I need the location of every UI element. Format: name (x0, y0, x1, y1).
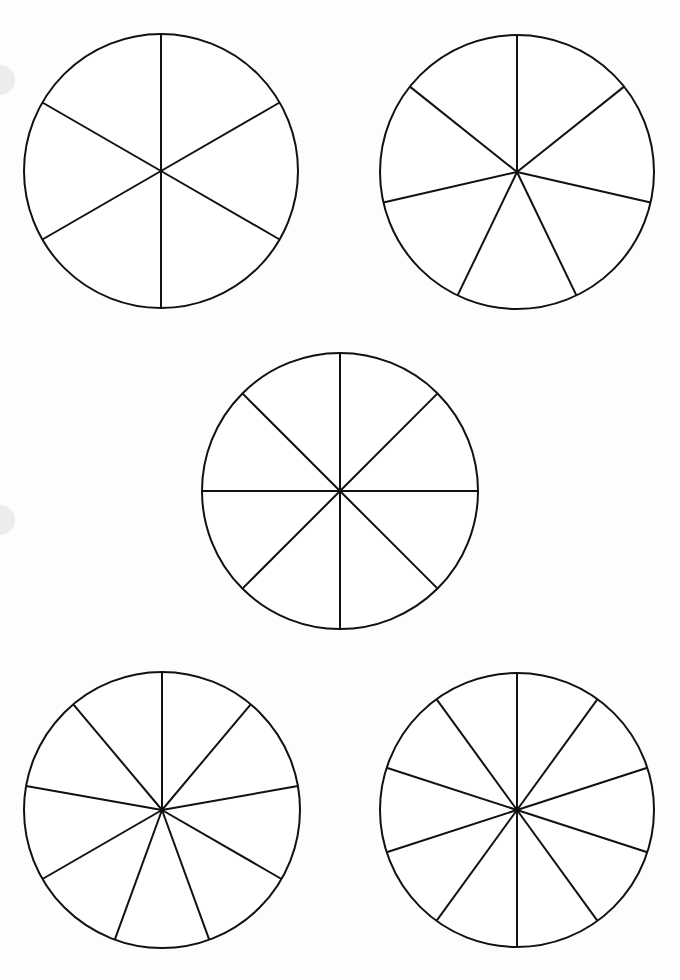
circle-8-sectors (202, 353, 478, 629)
fraction-circles-sheet (0, 0, 680, 980)
circle-9-sectors (24, 672, 300, 948)
circle-10-sectors (380, 673, 654, 947)
circle-6-sectors (24, 34, 298, 308)
circle-7-sectors (380, 35, 654, 309)
